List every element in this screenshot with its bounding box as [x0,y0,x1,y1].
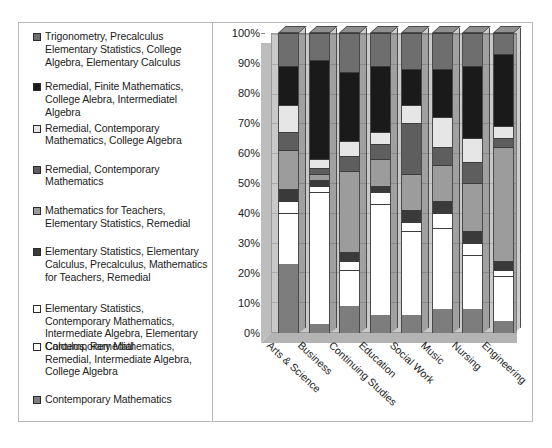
bar-segment[interactable] [401,315,422,333]
bar-segment[interactable] [493,54,514,126]
bar-segment[interactable] [309,159,330,168]
bar-segment[interactable] [462,162,483,183]
bar-segment[interactable] [493,33,514,54]
bar-segment-side [483,178,490,231]
bar-segment[interactable] [278,66,299,105]
bar-segment[interactable] [278,189,299,201]
bar-segment-side [299,208,306,264]
bar-segment[interactable] [370,315,391,333]
bar-segment[interactable] [278,201,299,213]
bar-segment[interactable] [401,123,422,174]
bar-segment[interactable] [339,270,360,306]
bar-segment-side [422,28,429,69]
bar-segment[interactable] [278,105,299,132]
chart-page: Trigonometry, Precalculus Elementary Sta… [0,0,552,448]
bar-segment[interactable] [432,213,453,228]
legend-item[interactable]: Contemporary Mathematics, Remedial, Inte… [33,340,209,378]
bar-segment[interactable] [401,33,422,69]
bar-segment[interactable] [493,138,514,147]
bar-segment[interactable] [339,72,360,141]
bar-segment[interactable] [278,264,299,333]
bar-segment[interactable] [309,33,330,60]
bar-segment[interactable] [339,261,360,270]
bar-column[interactable] [493,33,514,333]
bar-segment[interactable] [370,66,391,132]
legend-item[interactable]: Remedial, Finite Mathematics, College Al… [33,80,209,118]
legend-item[interactable]: Elementary Statistics, Elementary Calcul… [33,245,209,283]
legend-item[interactable]: Mathematics for Teachers, Elementary Sta… [33,204,209,229]
bar-segment-side [453,112,460,147]
chart-legend: Trigonometry, Precalculus Elementary Sta… [27,27,209,419]
bar-column[interactable] [370,33,391,333]
bar-column[interactable] [462,33,483,333]
bar-segment[interactable] [339,33,360,72]
bar-segment[interactable] [462,183,483,231]
bar-segment[interactable] [370,33,391,66]
bar-segment[interactable] [432,165,453,201]
bar-segment[interactable] [309,192,330,324]
bar-segment[interactable] [309,60,330,159]
bar-segment[interactable] [278,213,299,264]
bar-segment[interactable] [493,147,514,261]
bar-segment[interactable] [493,261,514,270]
bar-segment-side [391,61,398,132]
bar-segment[interactable] [339,156,360,171]
bar-segment[interactable] [339,252,360,261]
bar-segment[interactable] [278,132,299,150]
bar-segment[interactable] [370,144,391,159]
legend-item[interactable]: Remedial, Contemporary Mathematics [33,163,209,188]
bar-column[interactable] [309,33,330,333]
bar-segment[interactable] [370,204,391,315]
bar-segment[interactable] [401,210,422,222]
bar-segment[interactable] [432,33,453,69]
bar-segment[interactable] [432,309,453,333]
bar-segment[interactable] [339,141,360,156]
bar-segment[interactable] [432,69,453,117]
bar-segment[interactable] [462,231,483,243]
bar-segment[interactable] [401,69,422,105]
bar-segment[interactable] [309,168,330,174]
bar-segment-side [360,166,367,252]
bar-segment[interactable] [370,159,391,186]
bar-segment[interactable] [401,105,422,123]
bar-segment[interactable] [309,186,330,192]
legend-item-label: Mathematics for Teachers, Elementary Sta… [45,204,209,229]
bar-segment[interactable] [462,243,483,255]
bar-column[interactable] [401,33,422,333]
bar-segment[interactable] [462,309,483,333]
bar-segment[interactable] [432,228,453,309]
bar-segment[interactable] [462,33,483,66]
bar-segment[interactable] [370,186,391,192]
bar-segment[interactable] [278,150,299,189]
bar-segment[interactable] [370,192,391,204]
bar-segment[interactable] [432,117,453,147]
legend-item[interactable]: Contemporary Mathematics [33,393,209,406]
bar-segment[interactable] [401,231,422,315]
bar-segment[interactable] [339,306,360,333]
bar-segment[interactable] [462,138,483,162]
bar-segment[interactable] [493,270,514,276]
bar-segment[interactable] [309,324,330,333]
bar-segment[interactable] [432,201,453,213]
bar-segment[interactable] [309,174,330,180]
bar-segment[interactable] [370,132,391,144]
bar-column[interactable] [339,33,360,333]
bar-segment[interactable] [432,147,453,165]
bar-column[interactable] [432,33,453,333]
bar-segment[interactable] [462,66,483,138]
bar-segment[interactable] [401,222,422,231]
legend-item[interactable]: Trigonometry, Precalculus Elementary Sta… [33,30,209,68]
legend-item[interactable]: Remedial, Contemporary Mathematics, Coll… [33,122,209,147]
bar-column[interactable] [278,33,299,333]
bar-segment[interactable] [493,126,514,138]
bar-segment-side [360,265,367,306]
bar-segment[interactable] [462,255,483,309]
bar-segment[interactable] [493,321,514,333]
bar-segment[interactable] [309,180,330,186]
y-axis-tick-label: 60% [238,147,260,159]
bar-segment[interactable] [401,174,422,210]
bar-segment[interactable] [493,276,514,321]
bar-segment-side [422,226,429,315]
bar-segment[interactable] [339,171,360,252]
bar-segment[interactable] [278,33,299,66]
